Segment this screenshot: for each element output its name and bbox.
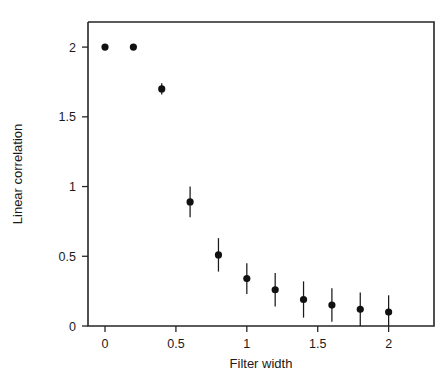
x-tick-label: 1.5	[309, 337, 326, 351]
scatter-plot: 00.511.52 00.511.52 Filter width Linear …	[0, 0, 448, 378]
data-point	[158, 85, 165, 92]
data-point	[272, 286, 279, 293]
x-tick-label: 1	[243, 337, 250, 351]
data-point	[130, 44, 137, 51]
data-point	[215, 251, 222, 258]
plot-frame	[88, 22, 434, 326]
data-point	[328, 301, 335, 308]
x-axis-label: Filter width	[230, 356, 293, 371]
y-axis-tick-labels: 00.511.52	[59, 41, 76, 334]
y-tick-label: 1.5	[59, 110, 76, 124]
y-tick-label: 1	[69, 180, 76, 194]
data-point	[385, 308, 392, 315]
chart-figure: 00.511.52 00.511.52 Filter width Linear …	[0, 0, 448, 378]
x-tick-label: 0	[102, 337, 109, 351]
y-tick-label: 2	[69, 41, 76, 55]
y-tick-label: 0	[69, 320, 76, 334]
data-series	[101, 44, 392, 326]
data-point	[243, 275, 250, 282]
x-axis-ticks	[105, 326, 389, 332]
y-axis-ticks	[82, 47, 88, 326]
x-tick-label: 2	[385, 337, 392, 351]
data-point	[101, 44, 108, 51]
y-tick-label: 0.5	[59, 250, 76, 264]
data-point	[300, 296, 307, 303]
x-tick-label: 0.5	[167, 337, 184, 351]
data-point	[357, 306, 364, 313]
x-axis-tick-labels: 00.511.52	[102, 337, 393, 351]
y-axis-label: Linear correlation	[10, 124, 25, 224]
data-point	[186, 198, 193, 205]
